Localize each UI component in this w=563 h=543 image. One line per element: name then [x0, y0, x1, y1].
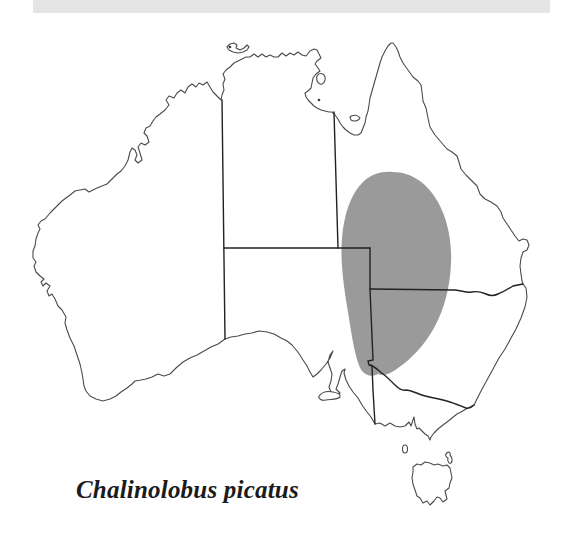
australia-map	[0, 0, 563, 543]
flinders-island	[446, 452, 452, 463]
page: Chalinolobus picatus	[0, 0, 563, 543]
mornington-island	[350, 115, 360, 121]
top-bar	[33, 0, 550, 13]
king-island	[403, 445, 408, 453]
tiwi-islet-dot	[229, 46, 232, 49]
species-caption: Chalinolobus picatus	[76, 476, 299, 504]
gulf-islet-dot	[318, 99, 321, 102]
kangaroo-island	[319, 392, 340, 401]
groote-eylandt	[317, 73, 326, 84]
coastline-group	[33, 43, 529, 505]
mainland-australia	[33, 43, 529, 440]
tasmania	[412, 462, 452, 505]
